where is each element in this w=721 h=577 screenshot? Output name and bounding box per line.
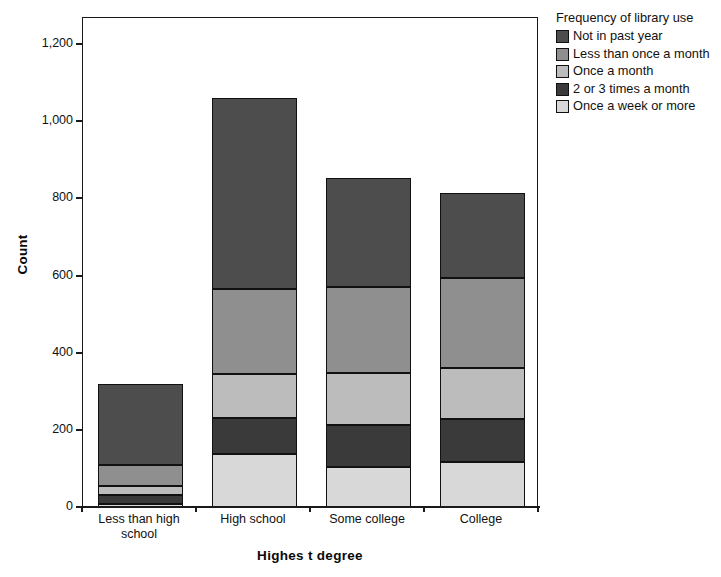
legend-item: Once a week or more: [556, 98, 721, 114]
legend-item: Less than once a month: [556, 46, 721, 62]
bar-segment: [440, 368, 525, 419]
bar-some-college: [326, 17, 411, 507]
legend-swatch-icon: [556, 100, 569, 113]
bar-segment: [212, 418, 297, 454]
legend-items: Not in past yearLess than once a monthOn…: [556, 28, 721, 114]
bar-segment: [212, 374, 297, 418]
y-tick-label: 1,200: [42, 35, 73, 51]
bar-college: [440, 17, 525, 507]
bar-segment: [98, 384, 183, 466]
x-axis-line: [82, 506, 540, 508]
bar-segment: [212, 98, 297, 290]
bar-segment: [440, 462, 525, 507]
legend-item-label: 2 or 3 times a month: [573, 81, 690, 97]
x-axis-title: Highes t degree: [82, 548, 538, 563]
legend-item-label: Once a month: [573, 63, 653, 79]
y-tick-label: 800: [52, 189, 73, 205]
legend-swatch-icon: [556, 48, 569, 61]
bar-segment: [98, 486, 183, 495]
y-axis-title: Count: [15, 215, 30, 295]
bar-segment: [326, 178, 411, 287]
legend-item-label: Not in past year: [573, 28, 663, 44]
y-tick-label: 400: [52, 344, 73, 360]
x-tick-label: College: [424, 512, 538, 527]
legend-item: 2 or 3 times a month: [556, 81, 721, 97]
y-tick-label: 600: [52, 267, 73, 283]
bar-segment: [326, 425, 411, 467]
bar-high-school: [212, 17, 297, 507]
legend-swatch-icon: [556, 30, 569, 43]
bar-segment: [440, 193, 525, 278]
bar-segment: [440, 278, 525, 368]
plot-area: [82, 17, 538, 507]
legend-swatch-icon: [556, 65, 569, 78]
y-tick-label: 0: [66, 498, 73, 514]
legend-item: Not in past year: [556, 28, 721, 44]
bar-segment: [212, 454, 297, 507]
bar-segment: [98, 465, 183, 486]
y-tick-label: 200: [52, 421, 73, 437]
x-tick-label: Less than high school: [82, 512, 196, 542]
x-tick-label: Some college: [310, 512, 424, 527]
legend-item-label: Once a week or more: [573, 98, 695, 114]
y-tick-label: 1,000: [42, 112, 73, 128]
bar-segment: [440, 419, 525, 462]
bar-segment: [212, 289, 297, 374]
bar-segment: [326, 287, 411, 373]
bar-less-than-high-school: [98, 17, 183, 507]
chart-figure: Count 02004006008001,0001,200 Less than …: [0, 0, 721, 577]
bar-segment: [326, 467, 411, 507]
bar-segment: [98, 495, 183, 504]
legend-item: Once a month: [556, 63, 721, 79]
legend-item-label: Less than once a month: [573, 46, 710, 62]
x-tick-label: High school: [196, 512, 310, 527]
legend: Frequency of library use Not in past yea…: [556, 10, 721, 116]
bar-segment: [326, 373, 411, 425]
legend-title: Frequency of library use: [556, 10, 721, 25]
legend-swatch-icon: [556, 83, 569, 96]
